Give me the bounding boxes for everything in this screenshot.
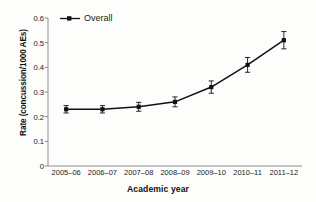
x-tick-label: 2010–11 bbox=[233, 168, 262, 177]
x-tick-label: 2007–08 bbox=[124, 168, 153, 177]
y-tick-label: 0.3 bbox=[22, 88, 44, 97]
y-tick-label: 0.6 bbox=[22, 14, 44, 23]
y-tick-label: 0.2 bbox=[22, 112, 44, 121]
data-point-marker bbox=[173, 100, 177, 104]
y-tick-label: 0 bbox=[22, 162, 44, 171]
y-tick-label: 0.4 bbox=[22, 63, 44, 72]
x-axis-title: Academic year bbox=[0, 184, 316, 194]
data-point-group bbox=[245, 57, 250, 72]
data-point-marker bbox=[64, 107, 68, 111]
data-point-group bbox=[136, 102, 141, 111]
legend-line-marker-icon bbox=[60, 14, 80, 23]
chart-figure: Rate (concussion/1000 AEs) 00.10.20.30.4… bbox=[0, 0, 316, 202]
data-point-marker bbox=[137, 105, 141, 109]
data-point-group bbox=[100, 106, 105, 113]
data-point-marker bbox=[245, 63, 249, 67]
data-point-marker bbox=[209, 85, 213, 89]
x-tick-label: 2009–10 bbox=[197, 168, 226, 177]
y-axis-tick-labels: 00.10.20.30.40.50.6 bbox=[20, 18, 44, 166]
data-point-group bbox=[281, 32, 286, 49]
legend-entry-label: Overall bbox=[84, 13, 113, 23]
y-tick-label: 0.1 bbox=[22, 137, 44, 146]
data-point-group bbox=[172, 97, 177, 107]
plot-area bbox=[48, 18, 302, 166]
data-point-group bbox=[209, 81, 214, 93]
plot-svg bbox=[48, 18, 302, 166]
x-tick-label: 2008–09 bbox=[160, 168, 189, 177]
x-tick-label: 2005–06 bbox=[52, 168, 81, 177]
data-point-marker bbox=[100, 107, 104, 111]
x-axis-tick-labels: 2005–062006–072007–082008–092009–102010–… bbox=[48, 168, 302, 182]
x-tick-label: 2006–07 bbox=[88, 168, 117, 177]
x-tick-label: 2011–12 bbox=[270, 168, 299, 177]
data-point-marker bbox=[282, 38, 286, 42]
chart-legend: Overall bbox=[60, 13, 113, 23]
y-tick-label: 0.5 bbox=[22, 38, 44, 47]
data-point-group bbox=[64, 106, 69, 113]
